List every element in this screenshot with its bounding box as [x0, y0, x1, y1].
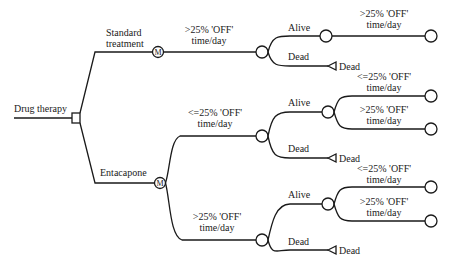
- terminal-circle-icon: [425, 30, 437, 42]
- standard-state-label-2: time/day: [192, 35, 227, 46]
- edge-alive: [268, 112, 322, 136]
- ent-state1-label-1: <=25% 'OFF': [188, 107, 242, 118]
- next-state-label-1: >25% 'OFF': [360, 196, 409, 207]
- terminal-circle-icon: [425, 90, 437, 102]
- standard-arm-label-2: treatment: [106, 38, 144, 49]
- terminal-circle-icon: [425, 123, 437, 135]
- chance-node-icon: [256, 46, 268, 58]
- terminal-circle-icon: [425, 181, 437, 193]
- standard-state-label-1: >25% 'OFF': [185, 24, 234, 35]
- next-state-label-2: time/day: [367, 207, 402, 218]
- edge-alive: [268, 204, 322, 240]
- dead-terminal-label: Dead: [339, 245, 360, 256]
- alive-label: Alive: [288, 22, 311, 33]
- terminal-triangle-icon: [328, 246, 336, 254]
- decision-node-icon: [72, 113, 80, 123]
- next-state-label-2: time/day: [367, 115, 402, 126]
- edge-entacapone-state-low: [166, 136, 257, 183]
- entacapone-arm-label: Entacapone: [100, 167, 147, 178]
- ent-state2-label-1: >25% 'OFF': [193, 211, 242, 222]
- next-state-label-2: time/day: [367, 82, 402, 93]
- ent-state1-label-2: time/day: [198, 118, 233, 129]
- next-state-label-1: <=25% 'OFF': [357, 71, 411, 82]
- dead-label: Dead: [288, 51, 309, 62]
- next-state-label-1: >25% 'OFF': [360, 104, 409, 115]
- next-state-label-2: time/day: [367, 19, 402, 30]
- terminal-triangle-icon: [328, 62, 336, 70]
- decision-tree-diagram: Drug therapy Standard treatment M >25% '…: [0, 0, 453, 270]
- chance-node-icon: [322, 106, 334, 118]
- next-state-label-2: time/day: [367, 174, 402, 185]
- markov-symbol: M: [154, 48, 161, 57]
- terminal-triangle-icon: [328, 154, 336, 162]
- alive-label: Alive: [288, 189, 311, 200]
- dead-label: Dead: [288, 236, 309, 247]
- chance-node-icon: [322, 198, 334, 210]
- markov-node-icon-entacapone: M: [155, 178, 166, 189]
- next-state-label-1: <=25% 'OFF': [357, 163, 411, 174]
- next-state-label-1: >25% 'OFF': [360, 8, 409, 19]
- chance-node-icon: [256, 234, 268, 246]
- markov-symbol: M: [156, 179, 163, 188]
- alive-label: Alive: [288, 97, 311, 108]
- terminal-circle-icon: [425, 215, 437, 227]
- markov-node-icon-standard: M: [153, 47, 164, 58]
- root-label: Drug therapy: [14, 103, 67, 114]
- edge-alive: [268, 36, 320, 52]
- chance-node-icon: [256, 130, 268, 142]
- dead-label: Dead: [288, 143, 309, 154]
- standard-arm-label-1: Standard: [106, 27, 142, 38]
- chance-node-icon: [320, 30, 332, 42]
- edge-standard-arm: [80, 52, 153, 113]
- ent-state2-label-2: time/day: [200, 222, 235, 233]
